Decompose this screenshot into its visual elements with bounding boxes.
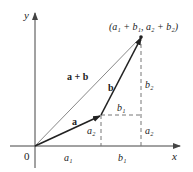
sum-point [139,35,143,39]
a1-axis-label: a₁ [64,152,72,163]
vector-addition-diagram: y x 0 (a₁ + b₁, a₂ + b₂) a + b b a b₂ b₁… [0,0,193,172]
y-axis-label: y [23,9,29,21]
a2-left-label: a₂ [87,125,96,136]
a2-right-label: a₂ [145,125,154,136]
vector-a-label: a [72,116,77,127]
vector-b-label: b [108,82,114,93]
vector-a-plus-b-label: a + b [67,71,89,82]
b1-mid-label: b₁ [117,102,125,113]
b2-label: b₂ [145,79,154,90]
point-label: (a₁ + b₁, a₂ + b₂) [109,21,179,33]
x-axis-label: x [171,150,177,162]
b1-axis-label: b₁ [118,152,126,163]
origin-label: 0 [24,150,30,162]
